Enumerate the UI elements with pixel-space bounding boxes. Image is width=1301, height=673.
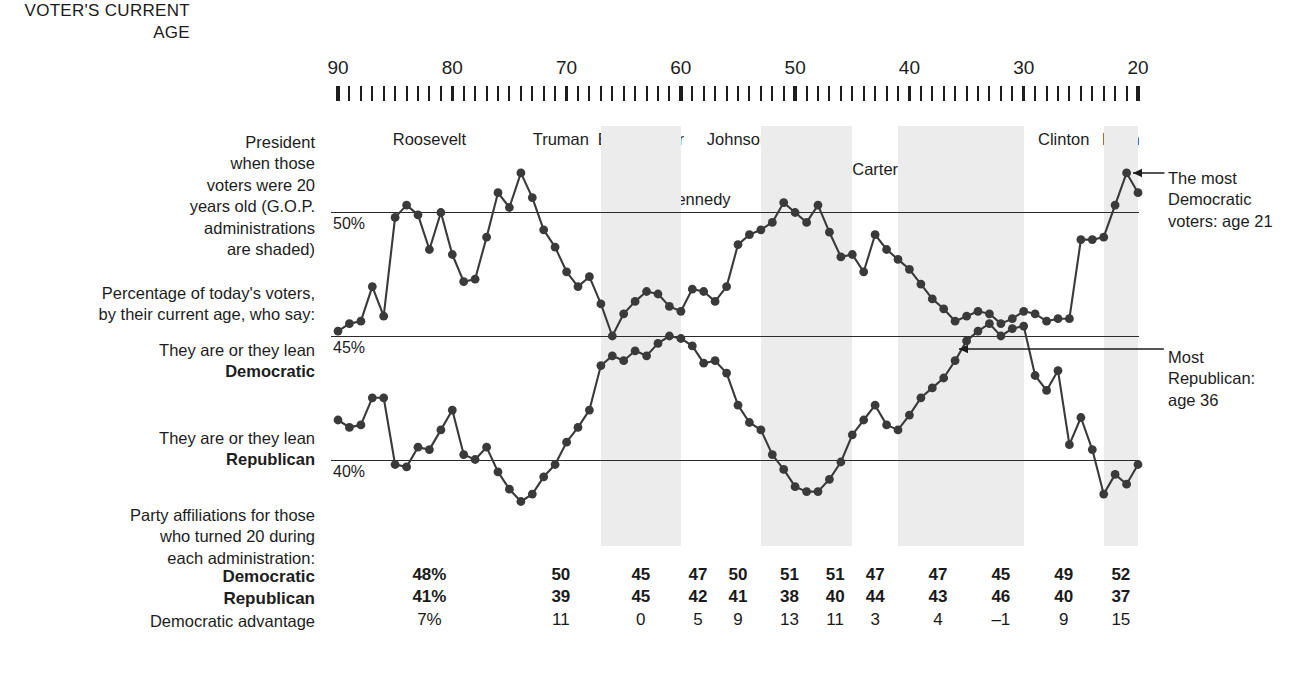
callout-most-republican: Most Republican: age 36 bbox=[1168, 347, 1301, 411]
data-point bbox=[368, 393, 377, 402]
axis-tick-major bbox=[793, 86, 796, 101]
age-tick-label-80: 80 bbox=[432, 57, 472, 79]
data-point bbox=[1042, 317, 1051, 326]
data-point bbox=[905, 265, 914, 274]
data-point bbox=[414, 443, 423, 452]
data-point bbox=[699, 287, 708, 296]
data-point bbox=[677, 307, 686, 316]
data-point bbox=[837, 253, 846, 262]
data-point bbox=[379, 312, 388, 321]
data-point bbox=[631, 297, 640, 306]
axis-tick-minor bbox=[486, 86, 488, 101]
table-value-democratic: 52 bbox=[1091, 565, 1151, 585]
data-point bbox=[459, 450, 468, 459]
data-point bbox=[768, 218, 777, 227]
data-point bbox=[871, 230, 880, 239]
data-point bbox=[1008, 324, 1017, 333]
data-point bbox=[1088, 235, 1097, 244]
axis-tick-minor bbox=[748, 86, 750, 101]
table-value-republican: 39 bbox=[531, 587, 591, 607]
table-value-republican: 40 bbox=[1034, 587, 1094, 607]
data-point bbox=[608, 332, 617, 341]
data-point bbox=[814, 487, 823, 496]
data-point bbox=[848, 250, 857, 259]
data-point bbox=[1031, 371, 1040, 380]
data-point bbox=[551, 460, 560, 469]
data-point bbox=[585, 406, 594, 415]
axis-tick-minor bbox=[863, 86, 865, 101]
table-value-advantage: 15 bbox=[1091, 610, 1151, 630]
data-point bbox=[939, 304, 948, 313]
axis-tick-minor bbox=[394, 86, 396, 101]
data-point bbox=[837, 458, 846, 467]
data-point bbox=[791, 482, 800, 491]
data-point bbox=[1008, 314, 1017, 323]
data-point bbox=[677, 334, 686, 343]
table-value-democratic: 49 bbox=[1034, 565, 1094, 585]
data-point bbox=[848, 430, 857, 439]
republican-lean-label: They are or they lean bbox=[10, 428, 315, 449]
data-point bbox=[425, 445, 434, 454]
axis-tick-minor bbox=[657, 86, 659, 101]
data-point bbox=[985, 319, 994, 328]
axis-tick-major bbox=[336, 86, 339, 101]
data-point bbox=[574, 282, 583, 291]
table-value-republican: 41% bbox=[399, 587, 459, 607]
data-point bbox=[779, 198, 788, 207]
data-point bbox=[437, 208, 446, 217]
data-point bbox=[1042, 386, 1051, 395]
administration-table: 48%504547505151474745495241%394542413840… bbox=[331, 565, 1151, 635]
axis-tick-minor bbox=[783, 86, 785, 101]
data-point bbox=[1111, 201, 1120, 210]
axis-header-label: VOTER'S CURRENT AGE bbox=[0, 0, 190, 44]
data-point bbox=[1077, 413, 1086, 422]
data-point bbox=[711, 297, 720, 306]
data-point bbox=[471, 275, 480, 284]
age-tick-label-50: 50 bbox=[775, 57, 815, 79]
data-point bbox=[654, 290, 663, 299]
axis-tick-minor bbox=[646, 86, 648, 101]
data-point bbox=[688, 342, 697, 351]
data-point bbox=[379, 393, 388, 402]
table-value-republican: 44 bbox=[845, 587, 905, 607]
axis-tick-minor bbox=[383, 86, 385, 101]
axis-tick-minor bbox=[531, 86, 533, 101]
president-description-label: President when those voters were 20 year… bbox=[10, 132, 315, 261]
data-point bbox=[1088, 445, 1097, 454]
chart-plot-area: 50%45%40% bbox=[331, 126, 1139, 546]
axis-tick-minor bbox=[988, 86, 990, 101]
age-tick-label-70: 70 bbox=[547, 57, 587, 79]
data-point bbox=[334, 327, 343, 336]
axis-tick-minor bbox=[611, 86, 613, 101]
party-affiliation-description: Party affiliations for those who turned … bbox=[10, 505, 315, 569]
axis-tick-minor bbox=[577, 86, 579, 101]
data-point bbox=[917, 280, 926, 289]
data-point bbox=[482, 443, 491, 452]
data-point bbox=[905, 411, 914, 420]
table-row-label-democratic: Democratic bbox=[10, 566, 315, 588]
data-point bbox=[345, 319, 354, 328]
data-point bbox=[882, 421, 891, 430]
data-point bbox=[471, 455, 480, 464]
data-point bbox=[414, 211, 423, 220]
axis-tick-minor bbox=[588, 86, 590, 101]
data-point bbox=[711, 356, 720, 365]
table-value-advantage: 11 bbox=[531, 610, 591, 630]
data-point bbox=[597, 361, 606, 370]
age-axis-ruler bbox=[331, 86, 1141, 102]
democratic-lean-word: Democratic bbox=[10, 361, 315, 382]
axis-tick-minor bbox=[1091, 86, 1093, 101]
axis-tick-minor bbox=[406, 86, 408, 101]
data-point bbox=[734, 240, 743, 249]
data-point bbox=[642, 351, 651, 360]
axis-tick-minor bbox=[668, 86, 670, 101]
data-point bbox=[951, 317, 960, 326]
axis-tick-minor bbox=[874, 86, 876, 101]
axis-tick-minor bbox=[703, 86, 705, 101]
axis-tick-minor bbox=[543, 86, 545, 101]
data-point bbox=[974, 307, 983, 316]
data-point bbox=[505, 203, 514, 212]
axis-tick-major bbox=[1022, 86, 1025, 101]
data-point bbox=[585, 272, 594, 281]
data-point bbox=[505, 485, 514, 494]
